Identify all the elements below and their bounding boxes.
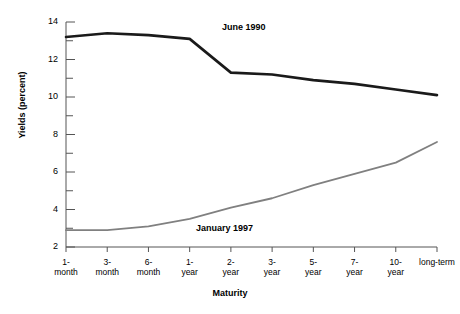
series-lines bbox=[66, 33, 437, 230]
series-label-january-1997: January 1997 bbox=[196, 223, 253, 233]
plot-area bbox=[0, 0, 460, 314]
series-label-june-1990: June 1990 bbox=[222, 22, 266, 32]
axes bbox=[66, 22, 437, 252]
yield-curve-chart: Yields (percent) Maturity 1412108642 1-m… bbox=[0, 0, 460, 314]
